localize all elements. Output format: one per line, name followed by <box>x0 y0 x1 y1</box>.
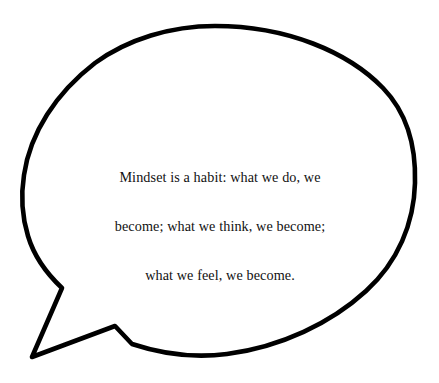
image-canvas: Mindset is a habit: what we do, we becom… <box>0 0 439 383</box>
quote-text-block: Mindset is a habit: what we do, we becom… <box>70 140 370 312</box>
quote-line-3: what we feel, we become. <box>70 263 370 288</box>
quote-line-1: Mindset is a habit: what we do, we <box>70 165 370 190</box>
quote-line-2: become; what we think, we become; <box>70 214 370 239</box>
